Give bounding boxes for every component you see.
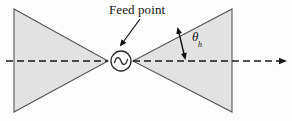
feed-point-label: Feed point: [109, 2, 165, 18]
bowtie-antenna-diagram: Feed point θh: [0, 0, 292, 121]
diagram-canvas: [0, 0, 292, 121]
half-angle-label: θh: [192, 29, 202, 47]
theta-subscript: h: [198, 40, 202, 49]
feed-point-leader-line: [121, 19, 140, 45]
